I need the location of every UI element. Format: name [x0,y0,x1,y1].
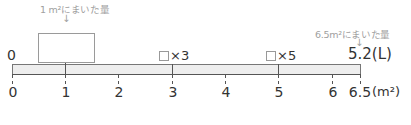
tick-4 [225,75,226,84]
one-m2-caption: 1 m²にまいた量 [40,2,109,16]
times5-label: ×5 [266,48,296,63]
axis-unit-label: (m²) [372,85,400,99]
tick-3 [172,75,173,84]
tick-label-5: 5 [275,85,284,99]
one-m2-caption-text: 1 m²にまいた量 [40,4,109,15]
down-arrow-icon: ↓ [62,14,70,24]
tick-label-3: 3 [169,85,178,99]
blank-box-icon [266,51,276,61]
times3-label: ×3 [159,48,189,63]
tick-label-4: 4 [222,85,231,99]
tick-label-6: 6 [329,85,338,99]
tick-label-6-5: 6.5 [349,85,371,99]
tick-6 [332,75,333,84]
tick-label-0: 0 [9,85,18,99]
tick-2 [118,75,119,84]
one-m2-amount-box [38,33,95,63]
top-zero-label: 0 [7,48,16,62]
blank-box-icon [159,51,169,61]
times3-text: ×3 [170,48,189,63]
six-five-m2-caption-text: 6.5m²にまいた量 [315,29,390,40]
tick-1 [65,75,66,84]
six-five-m2-caption: 6.5m²にまいた量 [315,27,390,41]
tick-label-1: 1 [62,85,71,99]
tick-label-2: 2 [115,85,124,99]
total-liters-label: 5.2(L) [348,47,392,61]
times5-text: ×5 [277,48,296,63]
tick-0 [12,75,13,84]
tick-6-5 [360,75,361,84]
tick-5 [278,75,279,84]
